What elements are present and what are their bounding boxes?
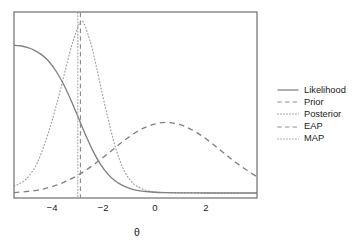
chart-legend: Likelihood Prior Posterior EAP MAP [277,84,353,145]
legend-key-prior-icon [277,96,299,108]
legend-key-eap-icon [277,121,299,133]
legend-item-map: MAP [277,133,353,145]
legend-label-likelihood: Likelihood [304,85,346,96]
x-axis-title: θ [134,226,140,238]
x-tick-label-0: −4 [47,202,58,213]
legend-key-posterior-icon [277,108,299,120]
legend-item-prior: Prior [277,96,353,108]
legend-label-map: MAP [304,133,324,144]
legend-item-posterior: Posterior [277,108,353,120]
legend-label-prior: Prior [304,97,324,108]
legend-item-eap: EAP [277,121,353,133]
legend-item-likelihood: Likelihood [277,84,353,96]
plot-panel-background [14,12,257,198]
x-tick-label-2: 0 [152,202,157,213]
chart-figure: −4 −2 0 2 θ Likelihood Prior Posterior [0,0,355,250]
legend-key-map-icon [277,133,299,145]
x-tick-label-1: −2 [98,202,109,213]
legend-key-likelihood-icon [277,84,299,96]
legend-label-eap: EAP [304,121,323,132]
legend-label-posterior: Posterior [304,109,341,120]
x-tick-label-3: 2 [203,202,208,213]
